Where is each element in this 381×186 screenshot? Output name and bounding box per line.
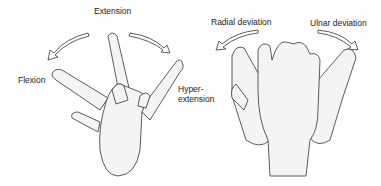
label-flexion: Flexion xyxy=(18,75,45,85)
curved-arrow-right-icon xyxy=(318,30,358,50)
label-radial-deviation: Radial deviation xyxy=(211,17,271,27)
curved-arrow-left-icon xyxy=(216,30,258,50)
curved-arrow-left-icon xyxy=(48,33,89,60)
curved-arrow-right-icon xyxy=(129,33,170,53)
label-hyperextension-line1: Hyper- xyxy=(178,84,204,94)
label-ulnar-deviation: Ulnar deviation xyxy=(310,18,367,28)
wrist-movements-diagram: Extension Flexion Hyper- extension Radia… xyxy=(0,0,381,186)
label-hyperextension-line2: extension xyxy=(178,94,214,104)
label-extension: Extension xyxy=(94,6,131,16)
